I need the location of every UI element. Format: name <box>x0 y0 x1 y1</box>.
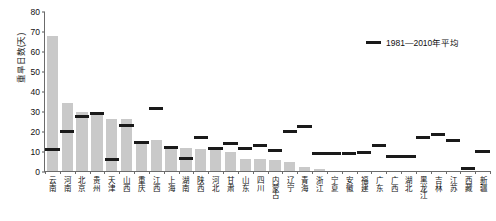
x-tick-mark <box>60 171 61 174</box>
bar-slot[interactable] <box>119 12 134 171</box>
x-tick-label: 江苏 <box>449 176 457 191</box>
average-marker[interactable] <box>342 152 356 155</box>
average-marker[interactable] <box>105 158 119 161</box>
y-tick-label: 50 <box>18 68 40 77</box>
average-marker[interactable] <box>164 146 178 149</box>
x-tick-mark <box>342 171 343 174</box>
bar-slot[interactable] <box>90 12 105 171</box>
average-marker[interactable] <box>179 157 193 160</box>
average-marker[interactable] <box>134 141 148 144</box>
x-tick-label: 湖南 <box>181 176 189 191</box>
legend-label: 1981—2010年平均 <box>386 36 459 48</box>
bar-slot[interactable] <box>475 12 490 171</box>
average-marker[interactable] <box>312 152 326 155</box>
x-tick-mark <box>371 171 372 174</box>
bar[interactable] <box>314 169 325 171</box>
bar[interactable] <box>165 147 176 171</box>
bar-slot[interactable] <box>268 12 283 171</box>
bar-slot[interactable] <box>282 12 297 171</box>
x-tick-mark <box>164 171 165 174</box>
bar-slot[interactable] <box>460 12 475 171</box>
x-tick-label: 广西 <box>390 176 398 191</box>
bar[interactable] <box>91 113 102 171</box>
bar[interactable] <box>121 119 132 171</box>
average-marker[interactable] <box>446 139 460 142</box>
x-tick-label: 四川 <box>256 176 264 191</box>
average-marker[interactable] <box>327 152 341 155</box>
bar-slot[interactable] <box>312 12 327 171</box>
bar-slot[interactable] <box>238 12 253 171</box>
bar-slot[interactable] <box>327 12 342 171</box>
average-marker[interactable] <box>372 144 386 147</box>
bar-slot[interactable] <box>134 12 149 171</box>
bar[interactable] <box>106 119 117 171</box>
x-tick-label: 新疆 <box>479 176 487 191</box>
x-tick-label: 北京 <box>77 176 85 191</box>
average-marker[interactable] <box>119 124 133 127</box>
x-tick-mark <box>253 171 254 174</box>
x-tick-mark <box>179 171 180 174</box>
bar[interactable] <box>151 140 162 171</box>
x-tick-label: 云南 <box>48 176 56 191</box>
bar-slot[interactable] <box>193 12 208 171</box>
average-marker[interactable] <box>283 130 297 133</box>
x-tick-label: 广东 <box>375 176 383 191</box>
bar-slot[interactable] <box>60 12 75 171</box>
average-marker[interactable] <box>268 149 282 152</box>
bar[interactable] <box>240 159 251 171</box>
average-marker[interactable] <box>90 112 104 115</box>
bar-slot[interactable] <box>342 12 357 171</box>
bar-slot[interactable] <box>45 12 60 171</box>
x-tick-label: 青海 <box>300 176 308 191</box>
average-marker[interactable] <box>357 151 371 154</box>
average-marker[interactable] <box>431 133 445 136</box>
average-marker[interactable] <box>386 155 400 158</box>
bar-slot[interactable] <box>223 12 238 171</box>
bar[interactable] <box>269 160 280 171</box>
average-marker[interactable] <box>416 136 430 139</box>
average-marker[interactable] <box>194 136 208 139</box>
bar-slot[interactable] <box>179 12 194 171</box>
y-tick-label: 30 <box>18 108 40 117</box>
bar[interactable] <box>136 141 147 171</box>
average-marker[interactable] <box>253 144 267 147</box>
bar[interactable] <box>47 36 58 171</box>
bar-slot[interactable] <box>253 12 268 171</box>
x-tick-label: 河南 <box>63 176 71 191</box>
bar-slot[interactable] <box>75 12 90 171</box>
bar-slot[interactable] <box>164 12 179 171</box>
bar[interactable] <box>195 149 206 171</box>
x-tick-label: 宁夏 <box>330 176 338 191</box>
bar[interactable] <box>210 149 221 171</box>
x-tick-label: 重庆 <box>137 176 145 191</box>
bar-slot[interactable] <box>104 12 119 171</box>
x-tick-label: 天津 <box>107 176 115 191</box>
bar[interactable] <box>76 112 87 171</box>
bar-slot[interactable] <box>208 12 223 171</box>
average-marker[interactable] <box>223 142 237 145</box>
average-marker[interactable] <box>461 167 475 170</box>
bar[interactable] <box>299 167 310 171</box>
y-tick-label: 60 <box>18 48 40 57</box>
average-marker[interactable] <box>75 115 89 118</box>
average-marker[interactable] <box>297 125 311 128</box>
average-marker[interactable] <box>401 155 415 158</box>
average-marker[interactable] <box>208 147 222 150</box>
bar[interactable] <box>225 152 236 171</box>
average-marker[interactable] <box>238 147 252 150</box>
average-marker[interactable] <box>149 107 163 110</box>
average-marker[interactable] <box>60 130 74 133</box>
y-tick-label: 80 <box>18 8 40 17</box>
x-tick-mark <box>386 171 387 174</box>
x-tick-label: 陕西 <box>196 176 204 191</box>
average-marker[interactable] <box>45 148 59 151</box>
y-tick-label: 70 <box>18 28 40 37</box>
bar-slot[interactable] <box>149 12 164 171</box>
bar-slot[interactable] <box>297 12 312 171</box>
bar[interactable] <box>254 159 265 171</box>
bar[interactable] <box>284 162 295 171</box>
y-tick-label: 0 <box>18 168 40 177</box>
average-marker[interactable] <box>475 150 489 153</box>
y-tick-label: 20 <box>18 128 40 137</box>
bar[interactable] <box>62 103 73 171</box>
